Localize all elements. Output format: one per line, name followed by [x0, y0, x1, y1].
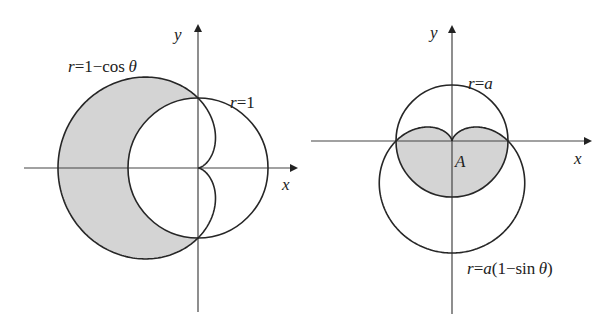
- x-axis-label-left: x: [281, 175, 290, 194]
- label-circle-right: r=a: [468, 74, 493, 93]
- label-circle-left: r=1: [230, 93, 255, 112]
- region-label-A: A: [454, 152, 466, 171]
- x-axis-label-right: x: [573, 149, 582, 168]
- label-cardioid-left: r=1−cos θ: [68, 57, 137, 76]
- right-figure: r=a r=a(1−sin θ) A y x: [311, 23, 590, 314]
- y-axis-label-left: y: [172, 25, 182, 44]
- y-axis-label-right: y: [428, 23, 438, 42]
- polar-area-diagrams: r=1−cos θ r=1 y x r=a r=a(1−sin θ) A y x: [0, 0, 604, 328]
- left-figure: r=1−cos θ r=1 y x: [24, 25, 296, 312]
- label-cardioid-right: r=a(1−sin θ): [467, 259, 553, 278]
